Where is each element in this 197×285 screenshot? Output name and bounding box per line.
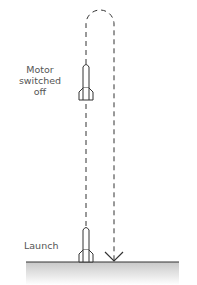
ground-shading bbox=[26, 262, 179, 285]
motor-label-line2: switched bbox=[18, 75, 62, 86]
motor-label-line1: Motor bbox=[18, 64, 62, 75]
motor-label-line3: off bbox=[18, 86, 62, 97]
motor-switched-off-label: Motor switched off bbox=[18, 64, 62, 97]
rocket-icon-launch bbox=[79, 228, 93, 263]
rocket-icon-motor-off bbox=[79, 65, 93, 101]
flight-path bbox=[86, 10, 114, 261]
launch-label: Launch bbox=[24, 240, 58, 251]
